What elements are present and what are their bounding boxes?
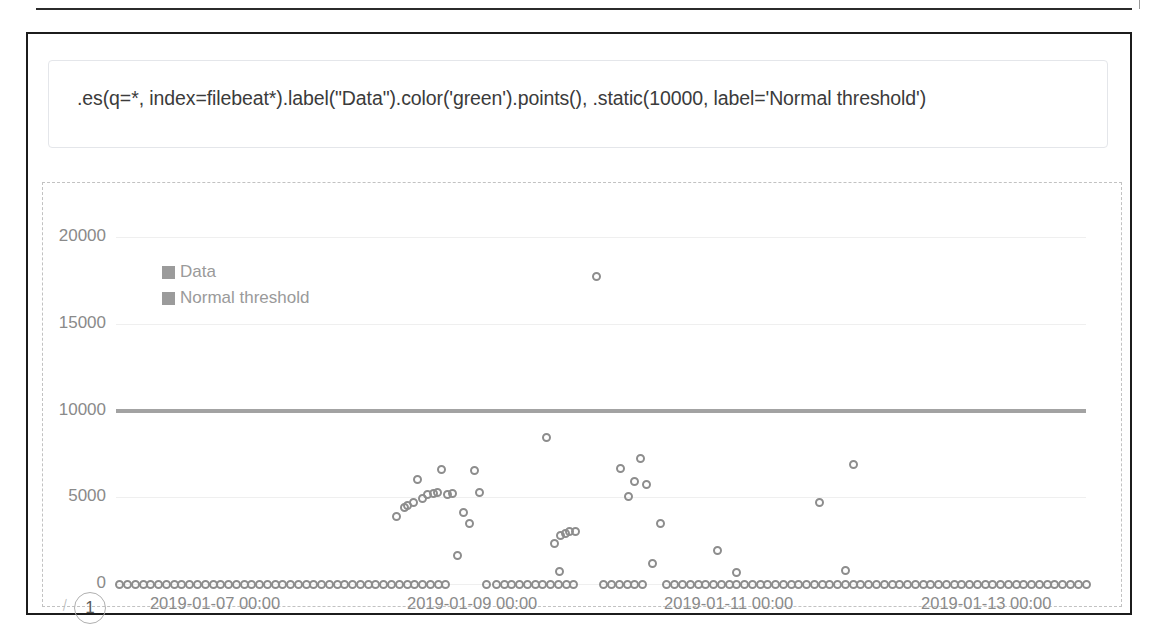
data-point [648, 559, 657, 568]
callout-badge-1: 1 [74, 592, 106, 624]
x-axis-tick-label: 2019-01-11 00:00 [664, 594, 793, 613]
y-axis-tick-label: 0 [36, 573, 106, 593]
page-separator-rule [36, 8, 1132, 10]
data-point [459, 508, 468, 517]
data-point [656, 519, 665, 528]
data-point [815, 498, 824, 507]
data-point [453, 551, 462, 560]
legend-item[interactable]: Normal threshold [162, 285, 309, 311]
legend-item-label: Normal threshold [180, 288, 309, 308]
y-axis-tick-label: 10000 [36, 400, 106, 420]
y-axis-tick-label: 5000 [36, 486, 106, 506]
data-point [732, 568, 741, 577]
timelion-panel: .es(q=*, index=filebeat*).label("Data").… [26, 32, 1132, 615]
data-point [437, 465, 446, 474]
data-point [616, 464, 625, 473]
x-axis-tick-label: 2019-01-09 00:00 [407, 594, 537, 613]
data-point [1082, 580, 1091, 589]
screenshot-root: .es(q=*, index=filebeat*).label("Data").… [0, 0, 1157, 643]
scatter-plot: 050001000015000200002019-01-07 00:002019… [43, 183, 1123, 608]
expression-input[interactable]: .es(q=*, index=filebeat*).label("Data").… [48, 60, 1108, 148]
data-point [465, 519, 474, 528]
data-point [713, 546, 722, 555]
data-point [571, 527, 580, 536]
x-axis-tick-label: 2019-01-13 00:00 [921, 594, 1051, 613]
page-corner-tick [1139, 0, 1140, 9]
data-point [470, 466, 479, 475]
data-point [841, 566, 850, 575]
y-gridline [116, 237, 1086, 238]
data-point [849, 460, 858, 469]
data-point [569, 580, 578, 589]
y-axis-tick-label: 20000 [36, 226, 106, 246]
data-point [555, 567, 564, 576]
data-point [392, 512, 401, 521]
legend-swatch-icon [162, 292, 175, 305]
data-point [592, 272, 601, 281]
data-point [630, 477, 639, 486]
y-gridline [116, 324, 1086, 325]
legend-swatch-icon [162, 266, 175, 279]
data-point [624, 492, 633, 501]
data-point [475, 488, 484, 497]
data-point [542, 433, 551, 442]
threshold-line [116, 409, 1086, 413]
data-point [638, 580, 647, 589]
data-point [550, 539, 559, 548]
y-gridline [116, 497, 1086, 498]
x-axis-tick-label: 2019-01-07 00:00 [150, 594, 280, 613]
data-point [441, 580, 450, 589]
y-axis-tick-label: 15000 [36, 313, 106, 333]
data-point [413, 475, 422, 484]
legend-item-label: Data [180, 262, 216, 282]
data-point [433, 488, 442, 497]
callout-number: 1 [85, 598, 94, 618]
data-point [409, 498, 418, 507]
chart-legend[interactable]: DataNormal threshold [162, 259, 309, 311]
chart-panel[interactable]: 050001000015000200002019-01-07 00:002019… [42, 182, 1122, 607]
expression-text: .es(q=*, index=filebeat*).label("Data").… [77, 87, 926, 110]
legend-item[interactable]: Data [162, 259, 309, 285]
data-point [482, 580, 491, 589]
data-point [642, 480, 651, 489]
data-point [636, 454, 645, 463]
